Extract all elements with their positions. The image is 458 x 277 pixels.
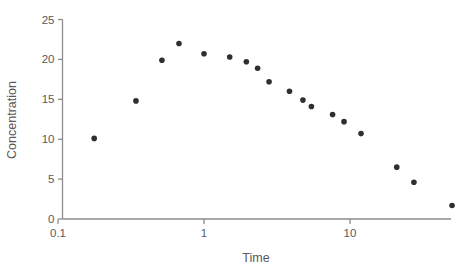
y-tick-label: 0 [48, 213, 54, 225]
data-point [394, 164, 400, 170]
data-point [411, 179, 417, 185]
data-point [341, 119, 347, 125]
x-tick-label: 0.1 [50, 227, 66, 239]
x-axis-ticks [58, 219, 350, 224]
y-tick-label: 10 [42, 133, 55, 145]
chart-figure: 0510152025 0.1110 Time Concentration [0, 0, 458, 277]
x-axis-title: Time [242, 251, 269, 265]
y-tick-label: 25 [42, 14, 55, 26]
data-point [227, 54, 233, 60]
y-axis-title: Concentration [5, 81, 19, 159]
data-point [244, 59, 250, 65]
data-point [133, 98, 139, 104]
data-point [449, 203, 455, 209]
data-point [287, 89, 293, 95]
data-point-group [91, 41, 454, 209]
scatter-plot: 0510152025 0.1110 Time Concentration [0, 0, 458, 277]
data-point [91, 136, 97, 142]
data-point [201, 51, 207, 57]
y-axis-tick-labels: 0510152025 [42, 14, 55, 226]
data-point [159, 57, 165, 63]
y-tick-label: 20 [42, 53, 55, 65]
data-point [255, 65, 261, 71]
y-tick-label: 5 [48, 173, 54, 185]
data-point [176, 41, 182, 47]
x-tick-label: 10 [344, 227, 357, 239]
x-tick-label: 1 [201, 227, 207, 239]
y-tick-label: 15 [42, 93, 55, 105]
x-axis-tick-labels: 0.1110 [50, 227, 356, 239]
data-point [266, 79, 272, 85]
data-point [309, 104, 315, 110]
data-point [358, 131, 364, 137]
y-axis-ticks [58, 20, 63, 220]
data-point [300, 97, 306, 103]
data-point [330, 112, 336, 118]
